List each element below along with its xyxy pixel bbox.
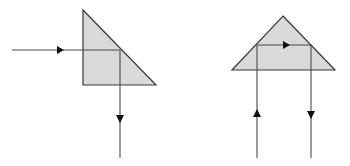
arrow-right-icon xyxy=(57,46,64,54)
prism-right-group xyxy=(232,16,335,158)
arrow-down-icon xyxy=(116,115,124,123)
prism-diagram xyxy=(0,0,350,166)
prism-left-group xyxy=(12,10,156,158)
arrow-up-icon xyxy=(253,109,261,117)
arrow-down-icon xyxy=(307,111,315,119)
